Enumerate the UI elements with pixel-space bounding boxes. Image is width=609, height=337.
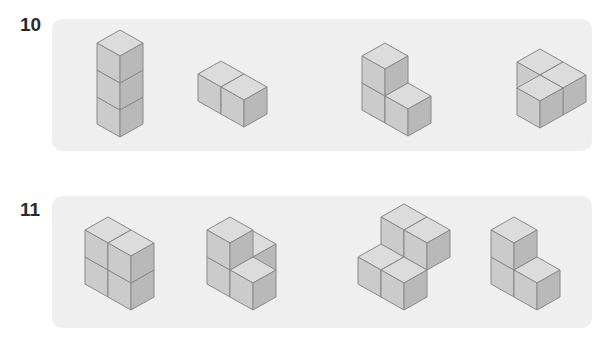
cube-figures: [0, 0, 609, 337]
figure-11-d: [491, 217, 560, 310]
figure-10-d: [517, 49, 586, 128]
figure-10-b: [198, 61, 267, 127]
figure-10-c: [362, 43, 431, 136]
figure-11-b: [207, 217, 276, 310]
figure-11-a: [85, 217, 154, 310]
figure-10-a: [97, 30, 143, 137]
figure-11-c: [358, 204, 450, 310]
